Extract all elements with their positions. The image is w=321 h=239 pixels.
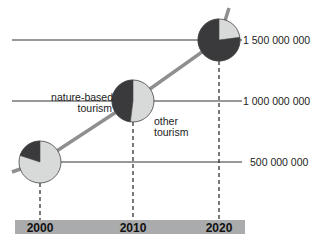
year-label-2000: 2000 <box>27 221 54 235</box>
other-label-line2: tourism <box>154 126 189 138</box>
y-tick-label: 1 000 000 000 <box>243 95 310 107</box>
tourism-chart: 500 000 0001 000 000 0001 500 000 000 20… <box>0 0 321 239</box>
year-label-2020: 2020 <box>206 221 233 235</box>
nature-label-line2: tourism <box>78 102 113 114</box>
y-tick-label: 500 000 000 <box>250 156 309 168</box>
pie-2000 <box>19 141 61 183</box>
year-label-2010: 2010 <box>120 221 147 235</box>
pie-nature-2010 <box>112 80 133 122</box>
y-tick-label: 1 500 000 000 <box>243 34 310 46</box>
pie-2010 <box>112 80 154 122</box>
pie-2020 <box>198 19 240 61</box>
